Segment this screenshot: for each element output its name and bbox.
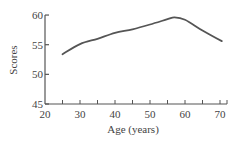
y-axis: 45505560 [32,9,49,110]
y-axis-label: Scores [7,45,19,74]
x-tick-label: 30 [75,108,87,120]
y-tick-label: 60 [32,9,44,21]
y-tick-label: 50 [32,68,44,80]
x-tick-label: 70 [215,108,227,120]
line-chart: 45505560 203040506070 Scores Age (years) [0,0,237,141]
x-tick-label: 60 [180,108,192,120]
score-line [63,17,222,54]
x-axis-label: Age (years) [107,123,159,136]
x-tick-label: 40 [110,108,122,120]
x-axis: 203040506070 [40,100,228,120]
x-tick-label: 20 [40,108,52,120]
data-series [63,17,222,54]
y-tick-label: 55 [32,39,44,51]
x-tick-label: 50 [145,108,157,120]
